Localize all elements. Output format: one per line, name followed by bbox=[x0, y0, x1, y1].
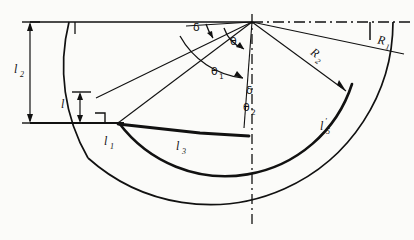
label-delta-top: δ bbox=[193, 21, 200, 34]
radial-line-upper-left bbox=[96, 22, 252, 98]
label-l-text: l bbox=[61, 97, 65, 111]
figure-container: l 2 l l 1 l 3 l ' 5 R 1 R bbox=[0, 0, 414, 240]
label-l1: l 1 bbox=[104, 134, 114, 151]
label-theta1-sub: 1 bbox=[219, 72, 224, 81]
label-l2-sub: 2 bbox=[20, 70, 24, 79]
label-delta-top-text: δ bbox=[193, 21, 200, 34]
dimension-l2-group bbox=[22, 22, 40, 123]
label-l5-prime: ' bbox=[325, 117, 327, 126]
label-l3-text: l bbox=[176, 139, 180, 153]
label-l5-sub: 5 bbox=[326, 127, 330, 136]
label-l2: l 2 bbox=[14, 62, 24, 79]
label-l3-sub: 3 bbox=[181, 147, 186, 156]
label-l5-text: l bbox=[320, 119, 324, 133]
label-l: l bbox=[61, 97, 65, 111]
label-theta1-text: θ bbox=[211, 65, 218, 78]
dimension-l-group bbox=[72, 22, 91, 123]
label-theta: θ bbox=[230, 35, 237, 48]
label-R2: R 2 bbox=[305, 44, 326, 66]
label-R1-sub: 1 bbox=[385, 42, 391, 52]
label-theta-text: θ bbox=[230, 35, 237, 48]
label-theta2-text: θ bbox=[243, 101, 250, 114]
inner-arc-l5 bbox=[119, 84, 352, 176]
radial-lines-group bbox=[96, 22, 404, 128]
label-theta1: θ 1 bbox=[211, 65, 224, 81]
label-l3: l 3 bbox=[176, 139, 186, 156]
inner-arc-group bbox=[119, 84, 352, 176]
label-l2-text: l bbox=[14, 62, 18, 76]
chord-l3 bbox=[118, 124, 249, 136]
dimension-l-arrow-top bbox=[77, 92, 83, 100]
technical-diagram: l 2 l l 1 l 3 l ' 5 R 1 R bbox=[0, 0, 414, 240]
dimension-l2-arrow-top bbox=[27, 22, 33, 31]
dimension-l2-arrow-bottom bbox=[27, 114, 33, 123]
label-delta-inner-text: δ bbox=[246, 84, 253, 97]
outer-arc-R1 bbox=[88, 22, 393, 205]
right-angle-marker-group bbox=[95, 113, 105, 123]
radius-R2-arrowhead bbox=[337, 80, 346, 91]
label-theta2-sub: 2 bbox=[251, 108, 256, 117]
label-l1-text: l bbox=[104, 134, 108, 148]
label-delta-inner: δ bbox=[246, 84, 253, 97]
outer-arc-left-R1 bbox=[63, 22, 88, 158]
chord-l3-group bbox=[118, 124, 249, 136]
angle-delta-arrowhead bbox=[207, 31, 213, 38]
right-angle-marker bbox=[95, 113, 105, 123]
dimension-l-arrow-bottom bbox=[77, 115, 83, 123]
label-l1-sub: 1 bbox=[110, 142, 114, 151]
